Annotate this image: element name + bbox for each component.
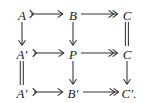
edge-B-to-P-arrow (70, 22, 77, 45)
node-label-B-prime: B′ (68, 87, 79, 100)
node-label-B: B (69, 9, 77, 22)
edge-P-to-Bprime-arrow (70, 61, 77, 84)
edge-A-to-B-monomorphism (30, 11, 63, 18)
commutative-diagram: A B C A′ P C A′ B′ C′. (0, 0, 144, 103)
node-label-P: P (69, 48, 77, 61)
edge-Aprime-to-P-monomorphism (33, 50, 64, 57)
edge-Aprime-to-Bprime-monomorphism (33, 89, 63, 96)
edge-A-to-Aprime-arrow (19, 22, 26, 45)
node-label-A: A (18, 9, 26, 22)
node-label-C-middle: C (123, 48, 132, 61)
edge-C-to-Cprime-arrow (124, 61, 131, 84)
edge-Aprime-to-Aprime-equality (20, 61, 23, 85)
node-label-C: C (123, 9, 132, 22)
node-label-A-prime-middle: A′ (17, 48, 28, 61)
node-label-C-prime: C′. (122, 87, 137, 100)
edge-P-to-C-epimorphism (81, 50, 118, 57)
edge-B-to-C-epimorphism (81, 11, 118, 18)
edge-Bprime-to-Cprime-epimorphism (83, 89, 119, 96)
node-label-A-prime-bottom: A′ (17, 87, 28, 100)
edge-C-to-C-equality (125, 22, 128, 46)
